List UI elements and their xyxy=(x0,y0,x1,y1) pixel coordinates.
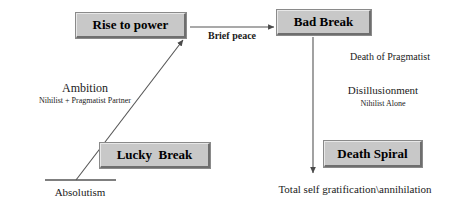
label-disillusionment-subtitle: Nihilist Alone xyxy=(360,100,405,108)
label-disillusionment: Disillusionment xyxy=(348,85,418,97)
box-rise-to-power-label: Rise to power xyxy=(93,17,169,33)
box-rise-to-power[interactable]: Rise to power xyxy=(76,13,186,38)
label-brief-peace: Brief peace xyxy=(208,31,256,42)
box-death-spiral[interactable]: Death Spiral xyxy=(324,141,422,167)
box-lucky-break-label: Lucky Break xyxy=(117,147,193,163)
diagram-canvas: Rise to power Bad Break Lucky Break Deat… xyxy=(0,0,451,211)
box-lucky-break[interactable]: Lucky Break xyxy=(100,143,210,168)
label-absolutism: Absolutism xyxy=(55,187,106,199)
label-ambition: Ambition xyxy=(62,82,108,95)
label-death-of-pragmatist: Death of Pragmatist xyxy=(350,52,430,63)
box-death-spiral-label: Death Spiral xyxy=(337,146,407,162)
box-bad-break[interactable]: Bad Break xyxy=(277,10,371,35)
label-total-self-gratification: Total self gratification\annihilation xyxy=(278,184,431,196)
box-bad-break-label: Bad Break xyxy=(294,14,353,30)
label-ambition-subtitle: Nihilist + Pragmatist Partner xyxy=(39,97,131,105)
